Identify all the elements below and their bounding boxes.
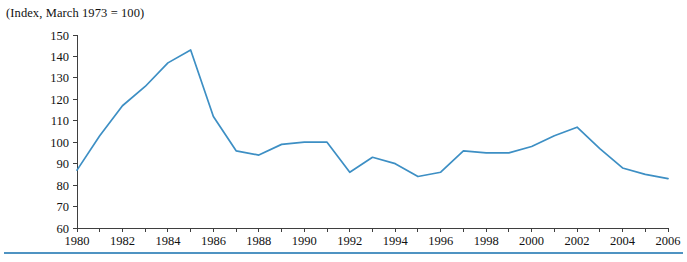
y-axis-tick-labels: 60708090100110120130140150 [50,29,69,236]
x-axis-ticks [77,228,668,232]
axis-lines [77,35,668,228]
y-tick-label: 70 [57,200,70,214]
series-line-index [77,50,668,179]
y-tick-label: 140 [50,50,69,64]
x-tick-label: 1998 [474,234,499,248]
x-tick-label: 1996 [428,234,453,248]
x-axis-tick-labels: 1980198219841986198819901992199419961998… [65,234,681,248]
line-chart: 60708090100110120130140150 1980198219841… [0,0,687,250]
x-tick-label: 1984 [155,234,181,248]
x-tick-label: 1988 [246,234,271,248]
bottom-divider-rule [4,252,683,254]
y-tick-label: 80 [57,179,70,193]
y-axis-ticks [73,35,77,228]
y-tick-label: 150 [50,29,69,43]
x-tick-label: 2006 [656,234,681,248]
y-tick-label: 100 [50,136,69,150]
x-tick-label: 1994 [383,234,409,248]
x-tick-label: 2000 [519,234,544,248]
x-tick-label: 1990 [292,234,317,248]
y-tick-label: 110 [51,114,69,128]
x-tick-label: 1980 [65,234,90,248]
y-tick-label: 130 [50,71,69,85]
x-tick-label: 1982 [110,234,135,248]
figure-container: (Index, March 1973 = 100) 60708090100110… [0,0,687,262]
y-tick-label: 120 [50,93,69,107]
x-tick-label: 1992 [337,234,362,248]
x-tick-label: 1986 [201,234,226,248]
plot-area: 60708090100110120130140150 1980198219841… [0,0,687,250]
x-tick-label: 2002 [565,234,590,248]
x-tick-label: 2004 [610,234,636,248]
y-tick-label: 90 [57,157,70,171]
